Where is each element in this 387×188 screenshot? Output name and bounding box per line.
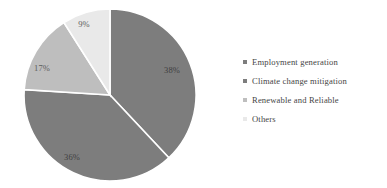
legend-item-label: Others [252,114,276,124]
pie-data-label-renewable-and-reliable: 17% [34,63,50,73]
legend-square-marker-icon [243,117,247,121]
legend-item-employment-generation[interactable]: Employment generation [243,52,387,71]
pie-data-label-climate-change-mitigation: 36% [64,152,80,162]
legend-item-label: Employment generation [252,57,338,67]
legend-square-marker-icon [243,79,247,83]
pie-chart-plot-area: 38% 36% 17% 9% [0,0,230,188]
pie-data-label-others: 9% [78,19,90,29]
legend-item-climate-change-mitigation[interactable]: Climate change mitigation [243,71,387,90]
legend-item-label: Renewable and Reliable [252,95,339,105]
legend-square-marker-icon [243,60,247,64]
pie-chart-svg: 38% 36% 17% 9% [0,0,230,188]
legend-item-renewable-and-reliable[interactable]: Renewable and Reliable [243,90,387,109]
legend-item-label: Climate change mitigation [252,76,347,86]
chart-legend: Employment generation Climate change mit… [243,52,387,128]
pie-chart-figure: 38% 36% 17% 9% Employment generation Cli… [0,0,387,188]
pie-data-label-employment-generation: 38% [164,65,180,75]
legend-square-marker-icon [243,98,247,102]
legend-item-others[interactable]: Others [243,109,387,128]
